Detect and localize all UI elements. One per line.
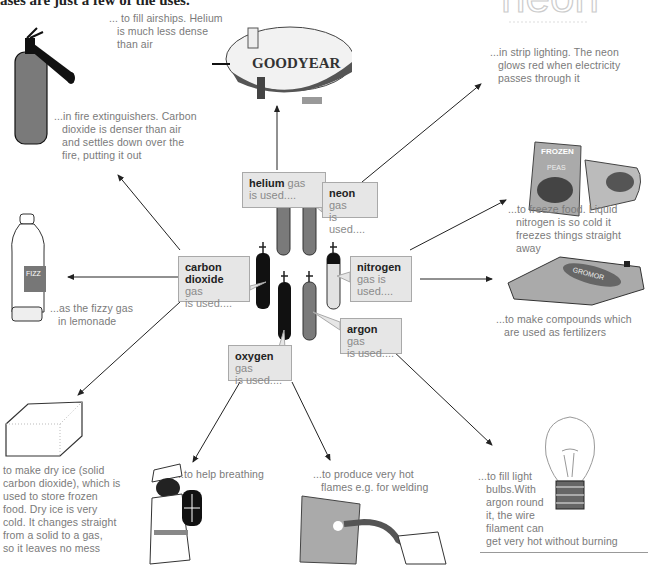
argon-label-box: argon gasis used.... [340,318,402,354]
neon-label-box: neon gasis used.... [322,182,378,218]
freeze-food-caption: ...to freeze food. Liquidnitrogen is so … [508,203,648,255]
argon-cylinder [303,271,316,340]
fertilizers-caption: ...to make compounds whichare used as fe… [496,313,632,339]
oxygen-label-box: oxygen gasis used.... [228,345,292,381]
oxygen-cylinder [278,271,291,340]
carbon-dioxide-cylinder [256,242,270,309]
bottom-divider [480,552,648,553]
dry-ice-caption: to make dry ice (solidcarbon dioxide), w… [3,464,120,555]
fizzy-gas-caption: ...as the fizzy gasin lemonade [50,302,133,328]
carbon-dioxide-label-box: carbondioxide gasis used.... [178,256,250,302]
light-bulbs-caption: ...to fill lightbulbs.Withargon roundit,… [478,470,618,548]
strip-lighting-caption: ...in strip lighting. The neonglows red … [490,46,620,85]
fire-extinguishers-caption: ...in fire extinguishers. Carbondioxide … [54,110,197,162]
welding-caption: ...to produce very hotflames e.g. for we… [313,468,428,494]
helium-label-box: helium gasis used.... [242,172,326,208]
breathing-caption: ...to help breathing [175,468,264,481]
airships-caption: ... to fill airships. Heliumis much less… [109,12,223,51]
nitrogen-label-box: nitrogengas isused.... [350,256,412,302]
